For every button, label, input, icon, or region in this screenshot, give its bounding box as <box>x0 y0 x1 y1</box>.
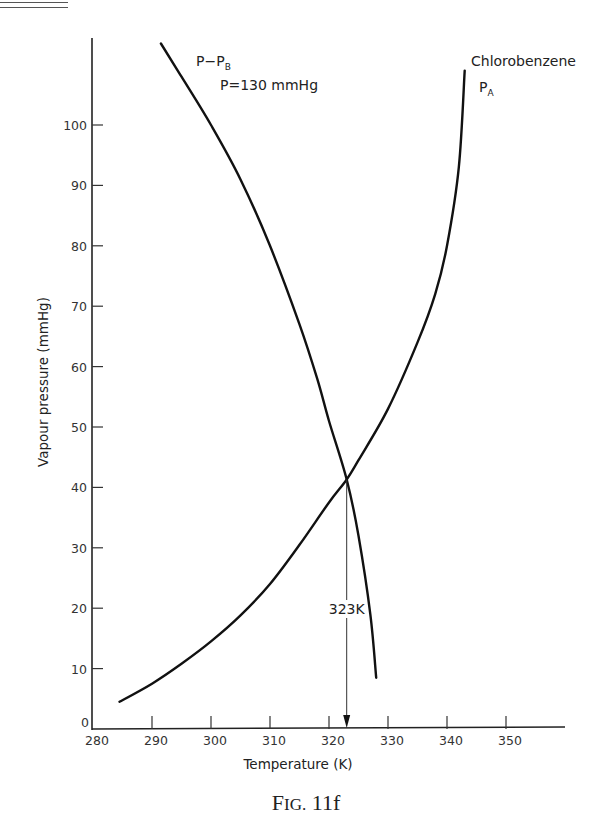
y-tick-label: 10 <box>71 662 87 677</box>
axes: 0102030405060708090100 28029030031032033… <box>35 38 565 772</box>
x-tick-label: 320 <box>321 733 345 748</box>
x-tick-label: 290 <box>144 733 168 748</box>
y-tick-label: 80 <box>71 239 87 254</box>
vapour-pressure-chart: 0102030405060708090100 28029030031032033… <box>0 0 612 827</box>
p-minus-pb-curve <box>161 44 376 678</box>
y-tick-label: 60 <box>71 360 87 375</box>
pb-label-sub: B <box>225 62 231 72</box>
y-tick-label: 100 <box>63 118 87 133</box>
x-tick-label: 340 <box>439 733 463 748</box>
pa-label-name: Chlorobenzene <box>471 53 576 69</box>
svg-text:PA: PA <box>479 79 494 98</box>
y-ticks: 0102030405060708090100 <box>63 118 103 730</box>
pb-curve-label: P−PB P=130 mmHg <box>196 53 318 93</box>
temperature-arrow-annotation: 323K <box>328 480 366 728</box>
x-axis-title: Temperature (K) <box>242 756 352 772</box>
figure-caption-text: FIG. 11f <box>272 790 340 815</box>
y-tick-label: 20 <box>71 601 87 616</box>
x-tick-label: 330 <box>380 733 404 748</box>
y-tick-label: 30 <box>71 541 87 556</box>
x-tick-label: 300 <box>203 733 227 748</box>
y-axis-title: Vapour pressure (mmHg) <box>35 297 51 467</box>
pa-label-sub: A <box>487 88 494 98</box>
arrow-label-323k: 323K <box>329 601 366 617</box>
arrow-head-icon <box>343 715 350 728</box>
x-tick-label: 310 <box>262 733 286 748</box>
y-tick-label: 90 <box>71 178 87 193</box>
figure-caption: FIG. 11f <box>0 790 612 816</box>
y-tick-label: 0 <box>81 715 89 730</box>
pa-curve-label: Chlorobenzene PA <box>471 53 576 98</box>
pb-label-pressure: P=130 mmHg <box>220 77 318 93</box>
pb-label-main: P−P <box>196 53 225 69</box>
x-ticks: 280290300310320330340350 <box>85 716 522 748</box>
chlorobenzene-pa-curve <box>120 71 465 702</box>
x-tick-label: 280 <box>85 733 109 748</box>
y-tick-label: 50 <box>71 420 87 435</box>
y-tick-label: 70 <box>71 299 87 314</box>
pa-label-main: P <box>479 79 487 95</box>
x-tick-label: 350 <box>498 733 522 748</box>
y-tick-label: 40 <box>71 480 87 495</box>
svg-text:P−PB: P−PB <box>196 53 231 72</box>
